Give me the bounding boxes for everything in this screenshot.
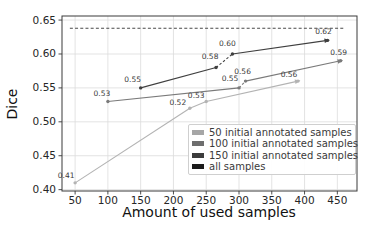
legend-swatch-icon [192,164,204,169]
series-segment [216,54,232,68]
data-point-marker [237,86,240,89]
point-value-label: 0.58 [202,52,219,61]
series-segment [75,108,190,183]
x-axis-label: Amount of used samples [122,204,296,220]
y-tick-label: 0.45 [33,149,56,161]
data-point-marker [188,107,191,110]
y-tick-label: 0.40 [33,183,56,195]
legend-swatch-icon [192,153,204,158]
point-value-label: 0.59 [330,48,347,57]
x-tick-label: 50 [68,194,81,206]
point-value-label: 0.62 [315,27,332,36]
point-value-label: 0.53 [94,89,111,98]
y-tick-label: 0.60 [33,47,56,59]
data-point-marker [205,100,208,103]
data-point-marker [231,52,234,55]
x-tick-label: 400 [295,194,315,206]
legend-label: all samples [209,161,265,172]
point-value-label: 0.53 [188,91,205,100]
legend-item: 100 initial annotated samples [192,138,355,149]
point-value-label: 0.56 [281,70,298,79]
data-point-marker [244,79,247,82]
point-value-label: 0.55 [124,75,141,84]
legend-item: 50 initial annotated samples [192,127,355,138]
point-value-label: 0.56 [234,67,251,76]
point-value-label: 0.55 [222,74,239,83]
series-segment [190,101,206,108]
legend-item: 150 initial annotated samples [192,150,355,161]
series-segment [141,68,216,88]
y-tick-label: 0.55 [33,81,56,93]
series-segment [206,81,298,101]
x-tick-label: 450 [327,194,347,206]
series-segment [232,40,327,54]
legend: 50 initial annotated samples100 initial … [188,124,356,175]
data-point-marker [214,66,217,69]
dice-line-chart-figure: 501001502002503003504004500.400.450.500.… [0,0,377,230]
data-point-marker [139,86,142,89]
legend-swatch-icon [192,130,204,135]
data-point-marker [106,100,109,103]
point-value-label: 0.41 [58,171,75,180]
legend-item: all samples [192,161,355,172]
point-value-label: 0.60 [219,39,236,48]
y-axis-label: Dice [4,89,20,120]
legend-label: 150 initial annotated samples [209,150,358,161]
legend-label: 100 initial annotated samples [209,138,358,149]
y-tick-label: 0.50 [33,115,56,127]
plot-area: 501001502002503003504004500.400.450.500.… [0,0,377,230]
legend-label: 50 initial annotated samples [209,127,352,138]
x-tick-label: 100 [98,194,118,206]
y-tick-label: 0.65 [33,14,56,26]
legend-swatch-icon [192,141,204,146]
data-point-marker [73,181,76,184]
point-value-label: 0.52 [169,98,186,107]
